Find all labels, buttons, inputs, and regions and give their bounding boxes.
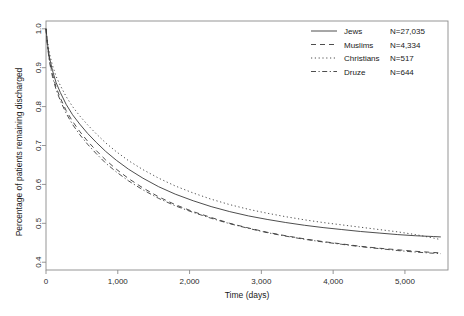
survival-curve-figure: 01,0002,0003,0004,0005,000 0.40.50.60.70… — [0, 0, 464, 316]
legend-count-christians: N=517 — [390, 54, 414, 63]
x-tick-label: 1,000 — [108, 277, 129, 286]
x-axis-ticks: 01,0002,0003,0004,0005,000 — [44, 270, 416, 286]
y-tick-label: 0.6 — [34, 178, 43, 190]
y-tick-label: 1.0 — [34, 23, 43, 35]
legend-label-muslims: Muslims — [344, 41, 373, 50]
y-tick-label: 0.7 — [34, 139, 43, 151]
x-tick-label: 2,000 — [180, 277, 201, 286]
y-tick-label: 0.8 — [34, 100, 43, 112]
legend-count-muslims: N=4,334 — [390, 41, 421, 50]
x-tick-label: 4,000 — [323, 277, 344, 286]
legend-count-jews: N=27,035 — [390, 27, 425, 36]
curve-druze — [46, 29, 441, 254]
legend-label-jews: Jews — [344, 27, 362, 36]
legend-count-druze: N=644 — [390, 68, 414, 77]
legend-label-christians: Christians — [344, 54, 380, 63]
curve-christians — [46, 29, 441, 240]
y-axis-label: Percentage of patients remaining dischar… — [14, 67, 24, 236]
curve-muslims — [46, 29, 441, 253]
x-axis-label: Time (days) — [225, 290, 270, 300]
x-tick-label: 0 — [44, 277, 49, 286]
y-tick-label: 0.9 — [34, 62, 43, 74]
legend-label-druze: Druze — [344, 68, 366, 77]
y-tick-label: 0.5 — [34, 217, 43, 229]
plot-frame — [46, 21, 448, 270]
chart-canvas: 01,0002,0003,0004,0005,000 0.40.50.60.70… — [0, 0, 464, 316]
data-curves — [46, 29, 441, 254]
curve-jews — [46, 29, 441, 237]
chart-legend: JewsN=27,035MuslimsN=4,334ChristiansN=51… — [311, 27, 425, 77]
plot-border — [46, 21, 448, 270]
y-axis-ticks: 0.40.50.60.70.80.91.0 — [34, 23, 46, 268]
x-tick-label: 3,000 — [251, 277, 272, 286]
x-tick-label: 5,000 — [395, 277, 416, 286]
y-tick-label: 0.4 — [34, 256, 43, 268]
